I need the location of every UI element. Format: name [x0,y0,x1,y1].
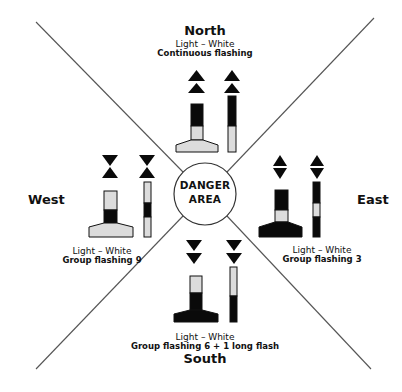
west-pattern-label: Group flashing 9 [52,256,152,266]
danger-label-line2: AREA [174,192,236,206]
west-topmark-icon [102,155,155,178]
north-buoy-group [176,70,240,152]
south-caption: Light – White Group flashing 6 + 1 long … [120,332,290,367]
north-spar-buoy-icon [228,96,236,152]
north-direction-label: North [140,24,270,39]
north-topmark-icon [188,70,240,93]
west-caption: Light – White Group flashing 9 [52,246,152,266]
east-caption: Light – White Group flashing 3 [272,245,372,265]
east-buoy-group [259,155,324,237]
south-buoy-group [174,240,242,322]
cardinal-marks-diagram: DANGER AREA North Light – White Continuo… [0,0,402,392]
west-direction-label: West [28,193,65,208]
west-pillar-buoy-icon [89,191,133,237]
south-spar-buoy-icon [230,267,237,322]
north-pillar-buoy-icon [176,104,218,152]
north-pattern-label: Continuous flashing [140,49,270,59]
south-topmark-icon [186,240,242,264]
south-direction-label: South [120,352,290,367]
east-pillar-buoy-icon [259,190,302,237]
east-topmark-icon [273,155,324,179]
east-spar-buoy-icon [313,182,320,237]
west-spar-buoy-icon [144,182,151,237]
south-pillar-buoy-icon [174,276,218,322]
danger-area-label: DANGER AREA [174,178,236,206]
danger-label-line1: DANGER [174,178,236,192]
east-direction-label: East [357,193,389,208]
north-caption: North Light – White Continuous flashing [140,24,270,59]
west-buoy-group [89,155,155,237]
east-pattern-label: Group flashing 3 [272,255,372,265]
